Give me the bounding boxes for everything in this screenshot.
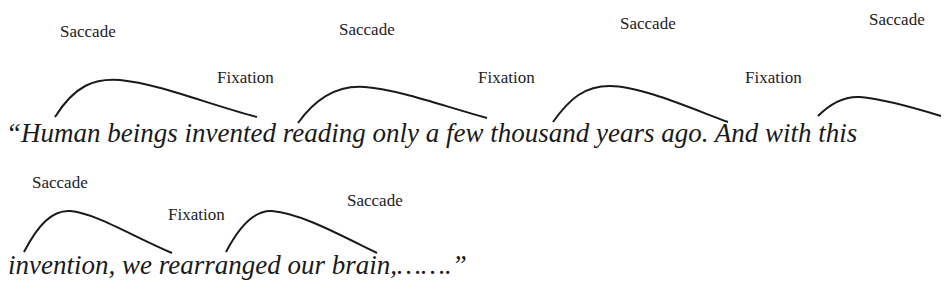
label-fixation: Fixation xyxy=(217,68,274,88)
text-line-2: invention, we rearranged our brain,…….” xyxy=(8,250,467,281)
label-saccade: Saccade xyxy=(60,22,116,42)
label-fixation: Fixation xyxy=(745,68,802,88)
label-saccade: Saccade xyxy=(339,20,395,40)
saccade-arc-4 xyxy=(818,97,941,116)
label-saccade: Saccade xyxy=(869,10,925,30)
saccade-arc-6 xyxy=(226,211,377,253)
saccade-arc-3 xyxy=(553,86,728,122)
saccade-arc-5 xyxy=(24,211,172,253)
label-fixation: Fixation xyxy=(478,68,535,88)
label-fixation: Fixation xyxy=(168,205,225,225)
text-line-1: “Human beings invented reading only a fe… xyxy=(6,118,857,149)
label-saccade: Saccade xyxy=(347,191,403,211)
label-saccade: Saccade xyxy=(620,14,676,34)
label-saccade: Saccade xyxy=(32,173,88,193)
